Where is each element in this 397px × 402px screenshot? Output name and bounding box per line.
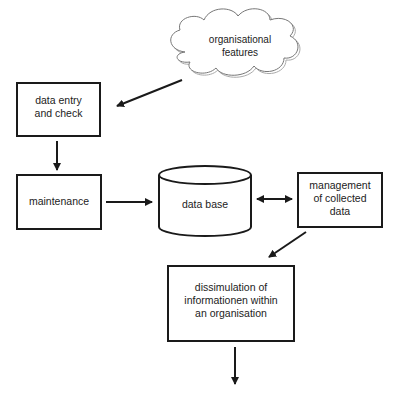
node-management: management of collected data	[297, 172, 383, 228]
node-data-entry: data entry and check	[16, 82, 101, 137]
node-maintenance-label: maintenance	[29, 195, 89, 208]
arrow-cloud-to-entry	[117, 80, 182, 106]
cloud-label: organisational features	[190, 33, 290, 59]
node-maintenance: maintenance	[16, 174, 102, 230]
database-label: data base	[159, 198, 251, 211]
node-data-entry-label: data entry and check	[35, 94, 83, 120]
arrow-management-to-dissimulation	[269, 232, 306, 257]
node-dissimulation: dissimulation of informationen within an…	[167, 265, 295, 342]
node-dissimulation-label: dissimulation of informationen within an…	[184, 281, 277, 320]
node-management-label: management of collected data	[309, 179, 370, 218]
